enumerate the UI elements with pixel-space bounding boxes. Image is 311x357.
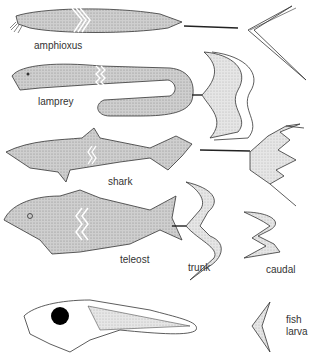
lamprey-myomere (202, 52, 254, 140)
amphioxus-drawing (10, 8, 238, 33)
myomere-diagram (0, 0, 311, 357)
label-larva: larva (286, 326, 308, 337)
label-teleost: teleost (120, 254, 149, 265)
amphioxus-myomere (248, 6, 306, 80)
label-fish: fish (286, 314, 302, 325)
label-amphioxus: amphioxus (34, 40, 82, 51)
lamprey-drawing (12, 64, 202, 116)
teleost-caudal-myomere (244, 212, 280, 258)
shark-myomere (250, 124, 304, 206)
label-lamprey: lamprey (38, 96, 74, 107)
label-caudal: caudal (266, 264, 295, 275)
fish-larva-drawing (24, 300, 197, 352)
teleost-drawing (4, 190, 186, 254)
label-trunk: trunk (188, 262, 210, 273)
fish-larva-myomere (252, 302, 270, 352)
label-shark: shark (108, 176, 132, 187)
